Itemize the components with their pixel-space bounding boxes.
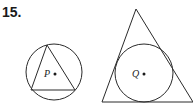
center-dot-q <box>143 73 146 76</box>
circumscribed-circle-p <box>26 44 82 100</box>
inscribed-triangle-p <box>31 45 75 90</box>
label-q: Q <box>132 68 140 79</box>
geometry-diagram: P Q <box>0 0 193 107</box>
label-p: P <box>43 68 50 79</box>
circumscribed-triangle-q <box>102 9 193 102</box>
figure-p <box>26 44 82 100</box>
figure-q <box>102 9 193 102</box>
center-dot-p <box>54 73 57 76</box>
